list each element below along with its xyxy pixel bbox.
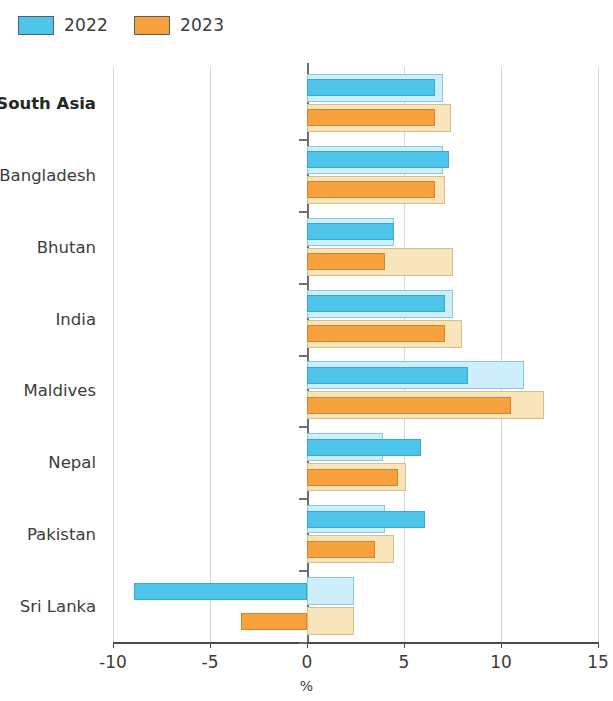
category-label-bhutan: Bhutan bbox=[37, 237, 96, 256]
bar-2022-bhutan bbox=[307, 223, 394, 240]
category-label-south-asia: South Asia bbox=[0, 93, 96, 112]
bar-chart: % -10-5051015South AsiaBangladeshBhutanI… bbox=[0, 0, 613, 701]
bar-2023-bangladesh bbox=[307, 181, 435, 198]
bar-2022-maldives bbox=[307, 367, 468, 384]
x-tick--10 bbox=[113, 642, 114, 648]
x-tick-10 bbox=[501, 642, 502, 648]
x-tick-5 bbox=[404, 642, 405, 648]
bar-2022-nepal bbox=[307, 439, 421, 456]
x-tick-label--10: -10 bbox=[99, 652, 127, 672]
x-tick-15 bbox=[598, 642, 599, 648]
bar-2022-sri-lanka bbox=[134, 583, 307, 600]
bar-2023-range-sri-lanka bbox=[307, 607, 354, 635]
category-label-sri-lanka: Sri Lanka bbox=[20, 597, 96, 616]
x-tick-label-10: 10 bbox=[490, 652, 512, 672]
y-tick bbox=[299, 642, 307, 644]
bar-2023-pakistan bbox=[307, 541, 375, 558]
gridline--10 bbox=[113, 67, 114, 642]
bar-2023-nepal bbox=[307, 469, 398, 486]
y-tick bbox=[299, 498, 307, 500]
plot-area bbox=[113, 67, 598, 642]
x-tick-label--5: -5 bbox=[202, 652, 219, 672]
gridline-10 bbox=[501, 67, 502, 642]
x-axis-title: % bbox=[0, 678, 613, 694]
bar-2022-south-asia bbox=[307, 79, 435, 96]
x-tick-label-15: 15 bbox=[587, 652, 609, 672]
bar-2022-bangladesh bbox=[307, 151, 449, 168]
category-label-maldives: Maldives bbox=[23, 381, 96, 400]
bar-2023-south-asia bbox=[307, 109, 435, 126]
bar-2022-india bbox=[307, 295, 445, 312]
y-tick bbox=[299, 139, 307, 141]
x-tick--5 bbox=[210, 642, 211, 648]
bar-2022-pakistan bbox=[307, 511, 425, 528]
x-tick-label-5: 5 bbox=[399, 652, 410, 672]
category-label-nepal: Nepal bbox=[48, 453, 96, 472]
x-tick-0 bbox=[307, 642, 308, 648]
category-label-bangladesh: Bangladesh bbox=[0, 165, 96, 184]
x-tick-label-0: 0 bbox=[302, 652, 313, 672]
gridline--5 bbox=[210, 67, 211, 642]
y-tick bbox=[299, 570, 307, 572]
bar-2023-maldives bbox=[307, 397, 511, 414]
y-tick bbox=[299, 426, 307, 428]
bar-2022-range-sri-lanka bbox=[307, 577, 354, 605]
category-label-pakistan: Pakistan bbox=[27, 525, 96, 544]
y-tick bbox=[299, 211, 307, 213]
bar-2023-india bbox=[307, 325, 445, 342]
x-axis-line bbox=[113, 642, 598, 644]
y-tick bbox=[299, 355, 307, 357]
category-label-india: India bbox=[56, 309, 97, 328]
y-tick bbox=[299, 283, 307, 285]
bar-2023-sri-lanka bbox=[241, 613, 307, 630]
bar-2023-bhutan bbox=[307, 253, 385, 270]
gridline-15 bbox=[598, 67, 599, 642]
